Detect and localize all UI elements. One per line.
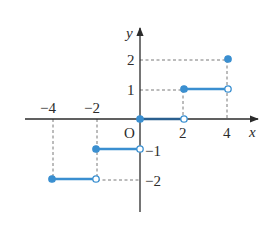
open-point-marker (93, 176, 99, 182)
y-tick-label: −1 (145, 143, 161, 159)
x-tick-label: 2 (179, 125, 187, 141)
y-axis-label: y (124, 25, 133, 41)
open-point-marker (137, 146, 143, 152)
x-axis-label: x (248, 124, 256, 140)
x-tick-label: −4 (40, 100, 56, 116)
closed-point-marker (137, 116, 143, 122)
open-point-marker (181, 116, 187, 122)
y-tick-label: 1 (127, 82, 135, 98)
origin-label: O (124, 125, 135, 141)
x-tick-label: 4 (223, 125, 231, 141)
y-tick-label: −2 (145, 173, 161, 189)
closed-point-marker (225, 56, 231, 62)
closed-point-marker (181, 86, 187, 92)
open-point-marker (225, 86, 231, 92)
y-tick-label: 2 (127, 52, 135, 68)
x-tick-label: −2 (84, 100, 100, 116)
closed-point-marker (93, 146, 99, 152)
closed-point-marker (49, 176, 55, 182)
step-function-chart: y x O −4 −2 2 4 2 1 −1 −2 (0, 0, 280, 230)
